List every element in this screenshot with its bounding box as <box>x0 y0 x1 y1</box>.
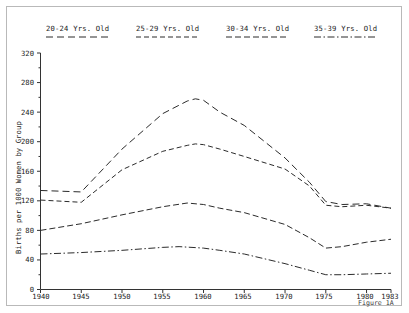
y-axis-ticks <box>37 53 41 290</box>
plot-area <box>0 0 409 313</box>
figure-container: 20-24 Yrs. Old 25-29 Yrs. Old 30-34 Yrs.… <box>0 0 409 313</box>
series-lines <box>41 99 392 275</box>
x-axis-ticks <box>41 290 392 294</box>
